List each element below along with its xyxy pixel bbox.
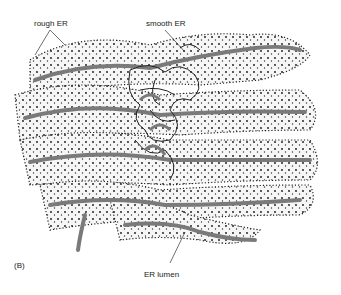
label-smooth-er: smooth ER <box>146 19 186 28</box>
label-rough-er: rough ER <box>34 19 68 28</box>
panel-label: (B) <box>14 261 25 270</box>
label-er-lumen: ER lumen <box>144 270 179 279</box>
er-illustration <box>0 0 341 295</box>
